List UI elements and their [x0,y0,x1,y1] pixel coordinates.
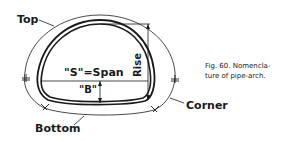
label-top: Top [17,14,38,25]
tick-right [171,75,179,83]
label-b: "B" [79,85,97,95]
leader-top [39,20,54,26]
caption-line-1: Fig. 60. Nomencla- [205,61,270,71]
label-rise: Rise [133,53,143,77]
tick-bottom-right [151,106,159,112]
leader-corner [170,98,184,103]
caption-line-2: ture of pipe-arch. [205,71,270,81]
label-span: "S"=Span [64,67,124,78]
label-corner: Corner [186,100,228,111]
figure-caption: Fig. 60. Nomencla- ture of pipe-arch. [205,61,270,81]
tick-left [22,74,30,82]
rise-arrow-top-icon [146,24,150,29]
label-bottom: Bottom [35,123,80,134]
b-arrow-top-icon [98,81,102,86]
